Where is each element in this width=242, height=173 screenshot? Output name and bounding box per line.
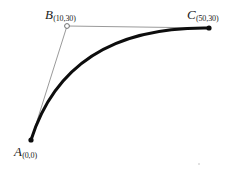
point-letter-c: C xyxy=(187,7,196,22)
point-label-c: C(50,30) xyxy=(187,6,219,23)
point-label-b: B(10,30) xyxy=(45,6,76,23)
point-coords-a: (0,0) xyxy=(22,151,37,160)
stray-speck xyxy=(198,163,200,165)
point-coords-c: (50,30) xyxy=(196,14,219,23)
point-label-a: A(0,0) xyxy=(14,143,37,160)
point-coords-b: (10,30) xyxy=(53,14,76,23)
point-letter-a: A xyxy=(14,144,22,159)
bezier-curve-path xyxy=(31,28,209,140)
bezier-diagram: A(0,0) B(10,30) C(50,30) xyxy=(0,0,242,173)
point-marker-c xyxy=(206,25,211,30)
point-marker-a xyxy=(28,137,33,142)
point-letter-b: B xyxy=(45,7,53,22)
point-marker-b xyxy=(65,24,70,29)
